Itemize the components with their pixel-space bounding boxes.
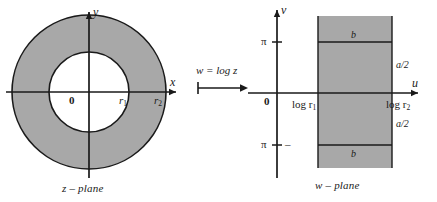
w-plane-graphics	[248, 10, 418, 178]
region-upper-label: a/2	[396, 60, 409, 70]
outer-radius-subscript: 2	[158, 99, 162, 108]
band-bottom-label: b	[351, 149, 356, 159]
right-edge-subscript: 2	[406, 103, 410, 112]
w-axis-v-arrowhead	[274, 10, 280, 17]
maps-to-arrow-head	[240, 84, 248, 92]
z-plane-caption: z – plane	[62, 183, 104, 194]
tick-label-pi: π	[261, 36, 267, 47]
tick-label-minus-pi: π	[261, 139, 267, 150]
w-plane-caption-text: w – plane	[315, 179, 360, 191]
z-origin-label: 0	[69, 95, 75, 106]
tick-label-minus-sign: –	[285, 139, 291, 150]
band-top-label: b	[351, 30, 356, 40]
inner-radius-subscript: 1	[123, 99, 127, 108]
w-axis-v-label: v	[281, 4, 286, 16]
z-axis-x-label: x	[170, 76, 175, 88]
inner-radius-label: r1	[119, 95, 127, 108]
left-edge-label: log r1	[292, 99, 316, 112]
mapping-arrow-graphics	[198, 82, 248, 94]
figure-conformal-map: x y 0 r1 r2 z – plane w = log z v u 0 π …	[0, 0, 437, 202]
z-axis-x-arrowhead	[169, 89, 176, 95]
outer-radius-label: r2	[154, 95, 162, 108]
figure-graphics	[0, 0, 437, 202]
w-plane-caption: w – plane	[315, 180, 360, 191]
left-edge-text: log r	[292, 98, 312, 110]
left-edge-subscript: 1	[312, 103, 316, 112]
z-plane-graphics	[6, 12, 176, 178]
z-axis-y-label: y	[93, 6, 98, 18]
right-edge-label: log r2	[386, 99, 410, 112]
mapping-formula-label: w = log z	[196, 65, 237, 76]
w-axis-u-arrowhead	[411, 90, 418, 96]
region-lower-label: a/2	[396, 119, 409, 129]
w-origin-label: 0	[264, 96, 270, 107]
z-plane-caption-text: z – plane	[62, 182, 104, 194]
w-axis-u-label: u	[412, 77, 418, 89]
right-edge-text: log r	[386, 98, 406, 110]
